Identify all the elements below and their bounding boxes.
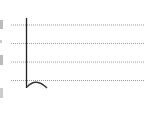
y-tick-label-clipped-2 (0, 40, 2, 43)
y-tick-label-clipped-1 (0, 20, 3, 29)
y-tick-label-clipped-3 (0, 55, 3, 65)
series-line (27, 82, 47, 88)
y-tick-labels (0, 20, 3, 98)
y-tick-label-clipped-4 (0, 88, 3, 98)
line-chart-fragment (0, 0, 145, 136)
gridlines (11, 25, 145, 81)
